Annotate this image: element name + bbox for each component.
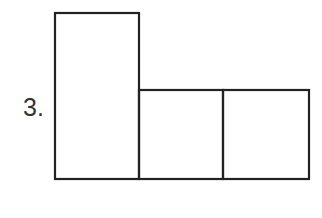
middle-square [139,90,223,179]
composite-shape-figure [0,0,322,218]
tall-rectangle [55,13,139,179]
right-square [223,90,309,179]
